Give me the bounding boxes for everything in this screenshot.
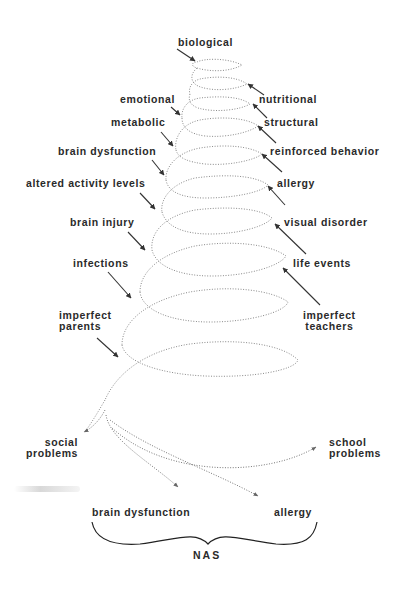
label-structural: structural [264, 117, 318, 128]
nas-brace [92, 522, 317, 544]
label-brain-dysfunction-outcome: brain dysfunction [92, 507, 190, 518]
label-infections: infections [73, 258, 129, 269]
label-imperfect-parents: imperfect parents [59, 310, 112, 332]
spiral-diagram [0, 0, 405, 589]
label-emotional: emotional [120, 94, 175, 105]
label-imperfect-teachers: imperfect teachers [303, 310, 356, 332]
label-nas: NAS [193, 550, 221, 561]
label-social-problems: social problems [26, 437, 78, 459]
label-visual-disorder: visual disorder [284, 217, 368, 228]
label-nutritional: nutritional [259, 94, 317, 105]
label-brain-injury: brain injury [70, 217, 134, 228]
label-reinforced-behavior: reinforced behavior [270, 146, 379, 157]
label-allergy-outcome: allergy [274, 507, 312, 518]
label-brain-dysfunction-input: brain dysfunction [58, 146, 156, 157]
arrow-to-brain-dysfunction [106, 415, 178, 487]
arrow-to-school-problems [112, 428, 316, 468]
outcome-arrows [84, 410, 316, 496]
label-altered-activity-levels: altered activity levels [26, 178, 145, 189]
label-metabolic: metabolic [111, 117, 165, 128]
label-school-problems: school problems [329, 437, 381, 459]
label-allergy-input: allergy [277, 178, 315, 189]
scan-artifact [14, 486, 80, 492]
label-biological: biological [178, 37, 233, 48]
label-life-events: life events [293, 258, 351, 269]
arrow-to-allergy [110, 420, 258, 496]
